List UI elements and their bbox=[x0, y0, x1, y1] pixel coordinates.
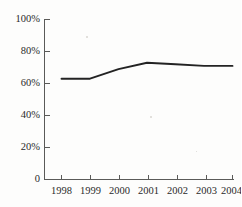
x-axis-ticks bbox=[62, 175, 233, 180]
y-axis-group: 100% 80% 60% 40% 20% 0 bbox=[16, 13, 50, 184]
y-tick-label-80: 80% bbox=[21, 45, 41, 56]
y-axis-ticks bbox=[45, 20, 50, 148]
x-tick-label-1998: 1998 bbox=[51, 185, 72, 196]
y-tick-label-40: 40% bbox=[21, 109, 41, 120]
y-axis-tick-labels: 100% 80% 60% 40% 20% 0 bbox=[16, 13, 41, 184]
y-tick-label-0: 0 bbox=[35, 173, 40, 184]
y-tick-label-100: 100% bbox=[16, 13, 41, 24]
x-axis-group: 1998 1999 2000 2001 2002 2003 2004 bbox=[45, 175, 242, 197]
x-tick-label-1999: 1999 bbox=[80, 185, 101, 196]
chart-canvas: 100% 80% 60% 40% 20% 0 1998 1999 bbox=[0, 0, 241, 207]
y-tick-label-20: 20% bbox=[21, 141, 41, 152]
line-chart-figure: 100% 80% 60% 40% 20% 0 1998 1999 bbox=[0, 0, 241, 207]
y-tick-label-60: 60% bbox=[21, 77, 41, 88]
x-axis-tick-labels: 1998 1999 2000 2001 2002 2003 2004 bbox=[51, 185, 241, 196]
x-tick-label-2003: 2003 bbox=[196, 185, 217, 196]
data-series-group bbox=[62, 63, 233, 79]
data-line-series-1 bbox=[62, 63, 233, 79]
x-tick-label-2000: 2000 bbox=[109, 185, 130, 196]
x-tick-label-2001: 2001 bbox=[138, 185, 159, 196]
x-tick-label-2002: 2002 bbox=[167, 185, 188, 196]
x-tick-label-2004: 2004 bbox=[221, 185, 241, 196]
